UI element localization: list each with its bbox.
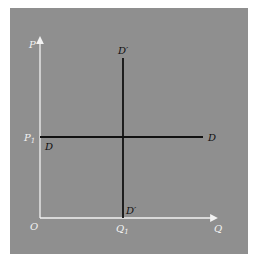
- demand-diagram: P Q O P1 Q1 D D D′ D′: [0, 0, 255, 262]
- x-axis-label: Q: [214, 223, 222, 234]
- price-level-label: P1: [23, 132, 35, 145]
- horizontal-demand-end-label: D: [207, 132, 216, 143]
- quantity-level-label: Q1: [116, 223, 129, 236]
- vertical-demand-top-label: D′: [117, 45, 129, 56]
- horizontal-demand-start-label: D: [44, 141, 53, 152]
- y-axis-label: P: [28, 39, 36, 50]
- vertical-demand-bottom-label: D′: [125, 205, 137, 216]
- origin-label: O: [30, 221, 38, 232]
